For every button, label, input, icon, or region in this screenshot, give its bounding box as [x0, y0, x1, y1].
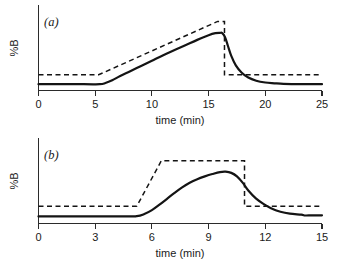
- panel-b-label: (b): [44, 148, 59, 162]
- panel-b-plot: 03691215 (b) %B time (min): [0, 133, 339, 266]
- panel-b-actual-gradient-line: [39, 172, 323, 217]
- panel-b-y-axis-title: %B: [8, 172, 20, 189]
- panel-b-x-axis-title: time (min): [156, 247, 205, 259]
- panel-a-plot: 0510152025 (a) %B time (min): [0, 0, 339, 133]
- panel-b-axes: 03691215: [35, 138, 328, 243]
- panel-b-x-tick-label: 15: [316, 231, 328, 243]
- panel-a-x-tick-label: 15: [202, 98, 214, 110]
- panel-a-x-axis-title: time (min): [156, 114, 205, 126]
- panel-a-label: (a): [44, 15, 59, 29]
- panel-a-x-ticks: 0510152025: [35, 91, 328, 110]
- panel-a-series: [39, 21, 323, 84]
- panel-b-x-ticks: 03691215: [35, 224, 328, 243]
- panel-a-x-tick-label: 0: [35, 98, 41, 110]
- panel-b-series: [39, 161, 323, 217]
- chromatography-gradient-figure: 0510152025 (a) %B time (min) 03691215: [0, 0, 339, 266]
- chart-panel-a: 0510152025 (a) %B time (min): [0, 0, 339, 133]
- panel-a-x-tick-label: 20: [259, 98, 271, 110]
- chart-panel-b: 03691215 (b) %B time (min): [0, 133, 339, 266]
- panel-a-actual-gradient-line: [39, 33, 323, 85]
- panel-a-x-tick-label: 25: [316, 98, 328, 110]
- panel-b-x-tick-label: 6: [149, 231, 155, 243]
- panel-a-axes: 0510152025: [35, 5, 328, 110]
- panel-b-x-tick-label: 12: [259, 231, 271, 243]
- panel-a-x-tick-label: 5: [92, 98, 98, 110]
- panel-b-programmed-gradient-line: [39, 161, 323, 207]
- panel-b-x-tick-label: 0: [35, 231, 41, 243]
- panel-a-x-tick-label: 10: [146, 98, 158, 110]
- panel-b-x-tick-label: 9: [206, 231, 212, 243]
- panel-b-x-tick-label: 3: [92, 231, 98, 243]
- panel-a-y-axis-title: %B: [8, 39, 20, 56]
